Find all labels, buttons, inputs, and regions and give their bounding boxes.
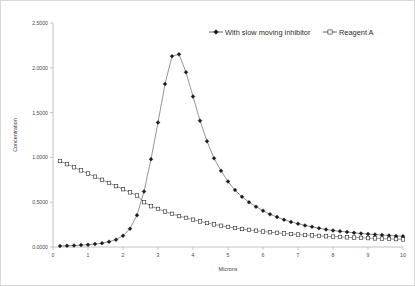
y-tick-label: 1.0000 [32,154,48,160]
data-point-marker [212,223,216,227]
data-point-marker [373,237,377,241]
x-tick-label: 1 [87,252,90,258]
data-point-marker [240,227,244,231]
x-tick-label: 6 [262,252,265,258]
data-point-marker [331,235,335,239]
data-point-marker [303,233,307,237]
x-tick-label: 10 [400,252,406,258]
data-point-marker [191,218,195,222]
data-point-marker [328,30,332,34]
data-point-marker [282,232,286,236]
data-point-marker [352,236,356,240]
data-point-marker [93,175,97,179]
data-point-marker [149,204,153,208]
y-tick-label: 0.0000 [32,244,48,250]
data-point-marker [394,237,398,241]
data-point-marker [170,212,174,216]
data-point-marker [86,172,90,176]
y-axis-title: Concentration [12,118,18,152]
data-point-marker [366,236,370,240]
x-tick-label: 3 [157,252,160,258]
data-point-marker [226,225,230,229]
x-tick-label: 2 [122,252,125,258]
data-point-marker [345,236,349,240]
data-point-marker [65,162,69,166]
data-point-marker [177,214,181,218]
data-point-marker [275,231,279,235]
chart-plot: 0.00000.50001.00001.50002.00002.50000123… [1,1,415,286]
data-point-marker [79,169,83,173]
data-point-marker [219,224,223,228]
data-point-marker [254,229,258,233]
data-point-marker [324,234,328,238]
data-point-marker [289,232,293,236]
legend-item-inhibitor[interactable]: With slow moving inhibitor [209,28,311,37]
data-point-marker [114,184,118,188]
data-point-marker [142,200,146,204]
data-point-marker [72,166,76,170]
data-point-marker [58,159,62,163]
x-tick-label: 9 [367,252,370,258]
data-point-marker [268,230,272,234]
chart-container: 0.00000.50001.00001.50002.00002.50000123… [0,0,415,286]
data-point-marker [128,191,132,195]
y-tick-label: 0.5000 [32,199,48,205]
data-point-marker [163,210,167,214]
data-point-marker [156,207,160,211]
data-point-marker [387,237,391,241]
data-point-marker [233,226,237,230]
data-point-marker [359,236,363,240]
x-tick-label: 8 [332,252,335,258]
data-point-marker [401,238,405,242]
data-point-marker [121,187,125,191]
data-point-marker [107,181,111,185]
data-point-marker [296,233,300,237]
x-tick-label: 0 [52,252,55,258]
data-point-marker [247,228,251,232]
data-point-marker [100,178,104,182]
data-point-marker [198,220,202,224]
legend-label: With slow moving inhibitor [225,28,311,37]
data-point-marker [338,235,342,239]
data-point-marker [310,234,314,238]
chart-legend: With slow moving inhibitorReagent A [209,28,374,37]
legend-label: Reagent A [339,28,374,37]
y-tick-label: 2.0000 [32,65,48,71]
x-tick-label: 4 [192,252,195,258]
data-point-marker [380,237,384,241]
y-tick-label: 1.5000 [32,110,48,116]
data-point-marker [317,234,321,238]
x-axis-title: Microns [219,266,238,272]
x-tick-label: 7 [297,252,300,258]
y-tick-label: 2.5000 [32,20,48,26]
plot-background [53,23,403,247]
data-point-marker [205,221,209,225]
data-point-marker [135,194,139,198]
data-point-marker [261,230,265,234]
x-tick-label: 5 [227,252,230,258]
data-point-marker [184,216,188,220]
